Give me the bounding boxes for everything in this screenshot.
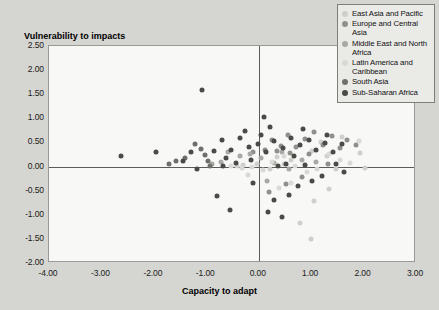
x-tick-label: 1.00 bbox=[290, 268, 330, 278]
scatter-point bbox=[272, 139, 277, 144]
scatter-point bbox=[315, 167, 320, 172]
y-tick-label: 2.00 bbox=[0, 64, 44, 74]
scatter-point bbox=[299, 175, 304, 180]
scatter-point bbox=[348, 160, 353, 165]
scatter-point bbox=[208, 163, 213, 168]
y-tick-label: 0.00 bbox=[0, 161, 44, 171]
x-tick-label: -1.00 bbox=[185, 268, 225, 278]
scatter-point bbox=[227, 207, 232, 212]
scatter-point bbox=[314, 148, 319, 153]
scatter-point bbox=[272, 198, 277, 203]
scatter-point bbox=[293, 163, 298, 168]
scatter-point bbox=[248, 152, 253, 157]
x-tick-label: 0.00 bbox=[238, 268, 278, 278]
x-tick-label: 2.00 bbox=[343, 268, 383, 278]
scatter-point bbox=[203, 152, 208, 157]
scatter-point bbox=[330, 134, 335, 139]
scatter-point bbox=[302, 162, 307, 167]
scatter-point bbox=[192, 142, 197, 147]
scatter-point bbox=[310, 179, 315, 184]
scatter-point bbox=[251, 180, 256, 185]
y-tick-label: 0.50 bbox=[0, 136, 44, 146]
legend-item[interactable]: Europe and Central Asia bbox=[341, 19, 431, 37]
scatter-point bbox=[267, 189, 272, 194]
scatter-point bbox=[309, 236, 314, 241]
scatter-point bbox=[260, 168, 265, 173]
scatter-point bbox=[283, 181, 288, 186]
scatter-point bbox=[259, 155, 264, 160]
scatter-point bbox=[255, 142, 260, 147]
scatter-point bbox=[188, 150, 193, 155]
scatter-point bbox=[221, 163, 226, 168]
scatter-point bbox=[224, 155, 229, 160]
scatter-point bbox=[306, 138, 311, 143]
scatter-point bbox=[268, 125, 273, 130]
legend-marker-icon bbox=[342, 79, 348, 85]
y-tick-label: -1.50 bbox=[0, 233, 44, 243]
scatter-point bbox=[246, 173, 251, 178]
y-tick-label: -0.50 bbox=[0, 185, 44, 195]
scatter-point bbox=[298, 221, 303, 226]
scatter-point bbox=[233, 160, 238, 165]
scatter-point bbox=[275, 163, 280, 168]
scatter-point bbox=[166, 161, 171, 166]
legend-item-label: Middle East and North Africa bbox=[352, 39, 431, 57]
scatter-point bbox=[276, 186, 281, 191]
legend-item[interactable]: Sub-Saharan Africa bbox=[341, 88, 431, 97]
scatter-point bbox=[322, 141, 327, 146]
scatter-point bbox=[270, 159, 275, 164]
scatter-point bbox=[264, 179, 269, 184]
legend-item[interactable]: Latin America and Caribbean bbox=[341, 58, 431, 76]
legend-item-label: South Asia bbox=[352, 77, 388, 86]
scatter-point bbox=[307, 151, 312, 156]
scatter-point bbox=[239, 165, 244, 170]
legend-item-label: Latin America and Caribbean bbox=[352, 58, 431, 76]
chart-container: Vulnerability to impacts 2.502.001.501.0… bbox=[0, 0, 439, 310]
scatter-point bbox=[344, 137, 349, 142]
scatter-point bbox=[311, 199, 316, 204]
scatter-point bbox=[154, 150, 159, 155]
y-tick-label: -1.00 bbox=[0, 209, 44, 219]
x-tick-label: -4.00 bbox=[28, 268, 68, 278]
scatter-point bbox=[211, 148, 216, 153]
scatter-point bbox=[238, 135, 243, 140]
legend-marker-icon bbox=[342, 21, 348, 27]
scatter-point bbox=[249, 157, 254, 162]
scatter-point bbox=[214, 194, 219, 199]
scatter-point bbox=[279, 215, 284, 220]
scatter-point bbox=[325, 162, 330, 167]
scatter-point bbox=[281, 153, 286, 158]
legend-marker-icon bbox=[342, 90, 348, 96]
scatter-point bbox=[341, 170, 346, 175]
y-tick-label: 1.00 bbox=[0, 112, 44, 122]
legend-item-label: East Asia and Pacific bbox=[352, 9, 423, 18]
legend-item[interactable]: Middle East and North Africa bbox=[341, 39, 431, 57]
scatter-point bbox=[173, 158, 178, 163]
legend-item[interactable]: East Asia and Pacific bbox=[341, 9, 431, 18]
scatter-point bbox=[300, 126, 305, 131]
scatter-point bbox=[289, 180, 294, 185]
y-tick-label: -2.00 bbox=[0, 257, 44, 267]
scatter-point bbox=[267, 166, 272, 171]
scatter-point bbox=[266, 210, 271, 215]
scatter-point bbox=[297, 143, 302, 148]
scatter-point bbox=[119, 153, 124, 158]
scatter-point bbox=[357, 139, 362, 144]
x-tick-label: -3.00 bbox=[80, 268, 120, 278]
scatter-point bbox=[220, 137, 225, 142]
scatter-point bbox=[362, 165, 367, 170]
scatter-point bbox=[289, 158, 294, 163]
legend-item[interactable]: South Asia bbox=[341, 77, 431, 86]
scatter-point bbox=[261, 115, 266, 120]
x-tick-label: -2.00 bbox=[133, 268, 173, 278]
scatter-point bbox=[180, 158, 185, 163]
scatter-point bbox=[264, 150, 269, 155]
scatter-point bbox=[194, 166, 199, 171]
legend-marker-icon bbox=[342, 11, 348, 17]
scatter-point bbox=[259, 132, 264, 137]
scatter-point bbox=[292, 153, 297, 158]
scatter-point bbox=[324, 132, 329, 137]
scatter-point bbox=[250, 164, 255, 169]
scatter-point bbox=[319, 174, 324, 179]
scatter-point bbox=[247, 145, 252, 150]
